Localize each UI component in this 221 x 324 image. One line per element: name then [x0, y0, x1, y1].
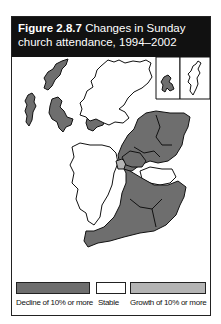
map-legend: Decline of 10% or more Stable Growth of … [16, 282, 206, 312]
figure-frame: Figure 2.8.7 Changes in Sunday church at… [11, 16, 211, 316]
legend-label-decline: Decline of 10% or more [16, 298, 93, 307]
figure-title-bar: Figure 2.8.7 Changes in Sunday church at… [12, 17, 210, 57]
scotland-map [12, 57, 210, 277]
legend-swatch-decline [16, 282, 90, 294]
figure-label: Figure 2.8.7 [18, 22, 82, 34]
legend-swatch-stable [96, 282, 126, 294]
legend-swatch-growth [130, 282, 206, 294]
legend-label-growth: Growth of 10% or more [130, 298, 206, 307]
legend-label-stable: Stable [98, 298, 119, 307]
